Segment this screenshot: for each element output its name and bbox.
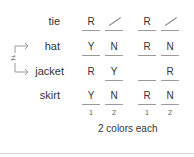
cell-jacket-1: R xyxy=(82,65,100,81)
row-label-skirt: skirt xyxy=(10,89,60,101)
cell-jacket-4: R xyxy=(161,65,179,81)
cell-jacket-3 xyxy=(138,65,156,81)
cell-tie-4 xyxy=(161,15,179,31)
cell-tie-3: R xyxy=(138,15,156,31)
cell-tie-1: R xyxy=(82,15,100,31)
cell-skirt-2: N xyxy=(105,89,123,105)
cell-skirt-1: Y xyxy=(82,89,100,105)
cell-hat-4: N xyxy=(161,40,179,56)
caption: 2 colors each xyxy=(98,123,157,134)
column-number-3: 1 xyxy=(138,109,156,116)
divider xyxy=(0,153,194,154)
cell-hat-3: R xyxy=(138,40,156,56)
cell-skirt-4: N xyxy=(161,89,179,105)
slash-mark xyxy=(163,15,177,28)
cell-skirt-3: R xyxy=(138,89,156,105)
cell-tie-2 xyxy=(105,15,123,31)
slash-mark xyxy=(107,15,121,28)
row-label-tie: tie xyxy=(10,15,60,27)
cell-hat-2: N xyxy=(105,40,123,56)
column-number-2: 2 xyxy=(105,109,123,116)
cell-jacket-2: Y xyxy=(105,65,123,81)
arrow-to-jacket-icon xyxy=(12,62,32,76)
cell-hat-1: Y xyxy=(82,40,100,56)
column-number-1: 1 xyxy=(82,109,100,116)
column-number-4: 2 xyxy=(161,109,179,116)
